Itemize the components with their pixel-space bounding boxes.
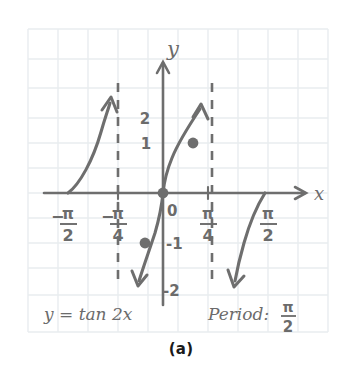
figure-container: y x 0 2 1 -1 -2 − π 2 − π 4 π [0, 0, 362, 368]
period-annotation-prefix: Period: [207, 304, 269, 324]
x-tick-pi-2-numerator: π [262, 205, 274, 223]
y-tick-label-1: 1 [141, 135, 151, 153]
x-axis-label: x [314, 183, 324, 204]
tangent-graph: y x 0 2 1 -1 -2 − π 2 − π 4 π [0, 0, 362, 368]
period-numerator: π [282, 299, 293, 315]
y-tick-label-neg-2: -2 [163, 282, 180, 300]
origin-label: 0 [167, 202, 177, 220]
point-pi-8-1 [188, 138, 199, 149]
y-tick-label-2: 2 [140, 110, 150, 128]
x-tick-pi-4-denominator: 4 [202, 226, 213, 245]
x-tick-pi-2-denominator: 2 [262, 226, 273, 245]
point-origin [158, 188, 169, 199]
y-tick-label-neg-1: -1 [166, 235, 183, 253]
x-tick-neg-pi-4-denominator: 4 [112, 226, 123, 245]
period-denominator: 2 [283, 318, 293, 336]
y-axis-label: y [166, 37, 180, 61]
x-tick-neg-pi-4-numerator: π [112, 205, 124, 223]
figure-caption: (a) [0, 340, 362, 358]
x-tick-pi-4-numerator: π [202, 205, 214, 223]
x-tick-neg-pi-2-numerator: π [62, 205, 74, 223]
equation-annotation: y = tan 2x [43, 304, 133, 324]
x-tick-neg-pi-2-denominator: 2 [62, 226, 73, 245]
point-neg-pi-8-neg-1 [140, 238, 151, 249]
